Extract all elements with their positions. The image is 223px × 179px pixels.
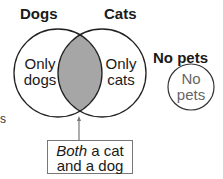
no-pets-line2: pets: [173, 87, 209, 103]
only-cats-line2: cats: [104, 72, 138, 88]
both-callout-box: Both a cat and a dog: [47, 140, 133, 174]
callout-line2: and a dog: [48, 158, 132, 173]
cropped-edge-text: s: [0, 112, 6, 126]
callout-arrowhead-icon: [77, 116, 81, 121]
only-dogs-line2: dogs: [22, 72, 58, 88]
no-pets-label: No pets: [153, 50, 208, 65]
no-pets-line1: No: [173, 71, 209, 87]
cats-label: Cats: [104, 6, 137, 21]
callout-line1: Both a cat: [48, 143, 132, 158]
no-pets-region-label: No pets: [173, 71, 209, 103]
only-dogs-line1: Only: [22, 56, 58, 72]
only-cats-line1: Only: [104, 56, 138, 72]
only-dogs-region-label: Only dogs: [22, 56, 58, 88]
only-cats-region-label: Only cats: [104, 56, 138, 88]
dogs-label: Dogs: [20, 6, 58, 21]
